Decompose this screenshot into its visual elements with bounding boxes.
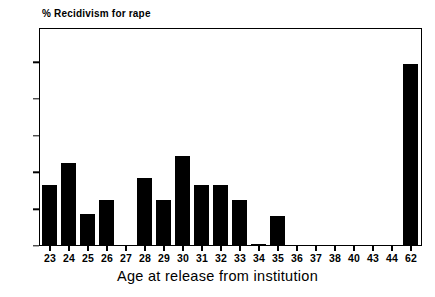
- x-tick-label-24: 24: [63, 252, 75, 264]
- x-tick-mark: [220, 246, 221, 251]
- x-tick-label-27: 27: [120, 252, 132, 264]
- bar-slot: [116, 29, 135, 245]
- bar-slot: [154, 29, 173, 245]
- x-tick-mark: [296, 246, 297, 251]
- x-tick-mark: [391, 246, 392, 251]
- x-tick-mark: [144, 246, 145, 251]
- x-tick-label-43: 43: [367, 252, 379, 264]
- chart-title: % Recidivism for rape: [42, 8, 151, 19]
- x-tick-mark: [182, 246, 183, 251]
- x-tick-label-31: 31: [196, 252, 208, 264]
- recidivism-bar-chart: % Recidivism for rape 020406080100 Age a…: [0, 0, 435, 297]
- y-tick-mark: [33, 172, 39, 173]
- bar-slot: [211, 29, 230, 245]
- y-tick-mark: [33, 98, 39, 99]
- x-tick-mark: [315, 246, 316, 251]
- x-axis-title: Age at release from institution: [0, 268, 435, 284]
- bar-slot: [173, 29, 192, 245]
- bar-25: [80, 214, 95, 245]
- bar-29: [156, 200, 171, 246]
- x-tick-label-30: 30: [177, 252, 189, 264]
- bar-28: [137, 178, 152, 246]
- x-tick-label-28: 28: [139, 252, 151, 264]
- x-tick-label-32: 32: [215, 252, 227, 264]
- x-tick-label-23: 23: [44, 252, 56, 264]
- x-tick-mark: [353, 246, 354, 251]
- bars-layer: [40, 29, 420, 245]
- bar-slot: [306, 29, 325, 245]
- bar-slot: [363, 29, 382, 245]
- bar-slot: [78, 29, 97, 245]
- x-tick-label-26: 26: [101, 252, 113, 264]
- x-tick-mark: [87, 246, 88, 251]
- y-axis: 020406080100: [0, 0, 39, 297]
- x-tick-label-40: 40: [348, 252, 360, 264]
- bar-slot: [40, 29, 59, 245]
- bar-slot: [344, 29, 363, 245]
- bar-62: [403, 64, 418, 246]
- bar-30: [175, 156, 190, 246]
- x-tick-label-37: 37: [310, 252, 322, 264]
- x-tick-mark: [163, 246, 164, 251]
- bar-31: [194, 185, 209, 246]
- x-tick-label-62: 62: [405, 252, 417, 264]
- bar-32: [213, 185, 228, 246]
- bar-slot: [325, 29, 344, 245]
- y-tick-mark: [33, 245, 39, 246]
- x-tick-label-35: 35: [272, 252, 284, 264]
- bar-slot: [382, 29, 401, 245]
- x-tick-mark: [410, 246, 411, 251]
- x-tick-label-38: 38: [329, 252, 341, 264]
- x-tick-label-25: 25: [82, 252, 94, 264]
- x-tick-mark: [239, 246, 240, 251]
- bar-slot: [287, 29, 306, 245]
- x-tick-mark: [201, 246, 202, 251]
- bar-slot: [401, 29, 420, 245]
- x-tick-label-34: 34: [253, 252, 265, 264]
- x-tick-mark: [258, 246, 259, 251]
- x-tick-label-29: 29: [158, 252, 170, 264]
- bar-24: [61, 163, 76, 246]
- bar-26: [99, 200, 114, 246]
- bar-slot: [249, 29, 268, 245]
- x-tick-label-44: 44: [386, 252, 398, 264]
- x-tick-mark: [277, 246, 278, 251]
- bar-slot: [135, 29, 154, 245]
- y-tick-mark: [33, 62, 39, 63]
- x-tick-mark: [372, 246, 373, 251]
- x-tick-mark: [106, 246, 107, 251]
- x-tick-label-33: 33: [234, 252, 246, 264]
- bar-33: [232, 200, 247, 246]
- bar-slot: [268, 29, 287, 245]
- bar-23: [42, 185, 57, 246]
- x-tick-label-36: 36: [291, 252, 303, 264]
- x-tick-mark: [68, 246, 69, 251]
- x-tick-mark: [334, 246, 335, 251]
- bar-slot: [230, 29, 249, 245]
- x-tick-mark: [125, 246, 126, 251]
- x-tick-mark: [49, 246, 50, 251]
- bar-35: [270, 216, 285, 245]
- bar-slot: [97, 29, 116, 245]
- bar-slot: [59, 29, 78, 245]
- y-tick-mark: [33, 135, 39, 136]
- bar-slot: [192, 29, 211, 245]
- y-tick-mark: [33, 208, 39, 209]
